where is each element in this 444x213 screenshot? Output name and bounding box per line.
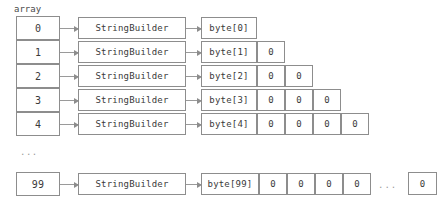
array-index-cell: 1 [16, 40, 60, 64]
byte-zero-cell: 0 [313, 113, 341, 135]
byte-zero-cell-tail: 0 [408, 172, 437, 195]
array-index-cell: 3 [16, 88, 60, 112]
arrow-object-to-buffer [186, 100, 201, 101]
arrow-index-to-object [60, 52, 78, 53]
byte-zero-cell: 0 [285, 113, 313, 135]
stringbuilder-box: StringBuilder [78, 173, 186, 195]
byte-buffer-box: byte[3] [201, 89, 257, 111]
byte-buffer-box: byte[99] [201, 173, 259, 195]
byte-buffer-box: byte[1] [201, 41, 257, 63]
byte-zero-cell: 0 [259, 173, 287, 195]
array-label: array [14, 4, 41, 14]
byte-zero-cell: 0 [285, 65, 313, 87]
arrow-object-to-buffer [186, 124, 201, 125]
arrow-object-to-buffer [186, 28, 201, 29]
arrow-index-to-object [60, 100, 78, 101]
stringbuilder-box: StringBuilder [78, 113, 186, 135]
byte-zero-cell: 0 [257, 65, 285, 87]
arrow-object-to-buffer [186, 76, 201, 77]
arrow-index-to-object [60, 184, 78, 185]
byte-zero-cell: 0 [341, 113, 369, 135]
stringbuilder-box: StringBuilder [78, 89, 186, 111]
arrow-index-to-object [60, 124, 78, 125]
array-of-stringbuilders-diagram: array 0 StringBuilder byte[0] 1 StringBu… [0, 0, 444, 213]
byte-zero-cell: 0 [343, 173, 371, 195]
arrow-index-to-object [60, 76, 78, 77]
byte-buffer-box: byte[0] [201, 17, 257, 39]
array-index-cell: 2 [16, 64, 60, 88]
byte-zero-cell: 0 [313, 89, 341, 111]
byte-zero-cell: 0 [257, 89, 285, 111]
byte-zero-cell: 0 [257, 113, 285, 135]
vertical-ellipsis: ... [20, 147, 38, 157]
arrow-index-to-object [60, 28, 78, 29]
byte-zero-cell: 0 [285, 89, 313, 111]
byte-zero-cell: 0 [315, 173, 343, 195]
horizontal-ellipsis: ... [378, 180, 397, 190]
stringbuilder-box: StringBuilder [78, 17, 186, 39]
byte-buffer-box: byte[2] [201, 65, 257, 87]
arrow-object-to-buffer [186, 52, 201, 53]
array-index-cell: 0 [16, 16, 60, 40]
byte-zero-cell: 0 [257, 41, 285, 63]
array-index-cell: 99 [16, 172, 60, 196]
byte-buffer-box: byte[4] [201, 113, 257, 135]
arrow-object-to-buffer [186, 184, 201, 185]
byte-zero-cell: 0 [287, 173, 315, 195]
array-index-cell: 4 [16, 112, 60, 136]
stringbuilder-box: StringBuilder [78, 41, 186, 63]
stringbuilder-box: StringBuilder [78, 65, 186, 87]
